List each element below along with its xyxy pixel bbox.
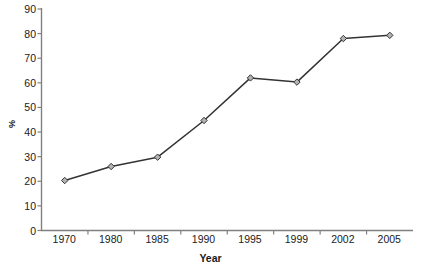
x-axis-title: Year [0,252,421,264]
data-point-marker [108,163,114,169]
axis-lines [41,8,413,231]
x-axis-tick-labels: 19701980198519901995199920022005 [41,234,413,250]
x-axis-tick-label: 1999 [285,234,308,245]
x-axis-tick-label: 2002 [331,234,354,245]
x-axis-tick-label: 1970 [53,234,76,245]
x-axis-tick-label: 1980 [99,234,122,245]
x-axis-tick-label: 1990 [192,234,215,245]
data-point-marker [62,177,68,183]
data-point-markers [62,32,393,184]
x-axis-tick-label: 2005 [378,234,401,245]
x-axis-tick-label: 1995 [238,234,261,245]
data-series-line [65,35,390,180]
data-point-marker [387,32,393,38]
line-chart: % 0102030405060708090 197019801985199019… [0,0,421,275]
x-axis-tick-label: 1985 [145,234,168,245]
